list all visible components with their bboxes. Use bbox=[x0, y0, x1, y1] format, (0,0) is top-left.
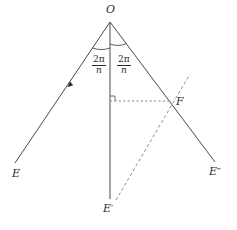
angle-label-right: 2π n bbox=[117, 55, 131, 76]
dashed-diagonal-through-f bbox=[116, 74, 190, 200]
geometry-canvas bbox=[0, 0, 237, 230]
angle-label-left-numerator: 2π bbox=[92, 55, 106, 64]
angle-label-right-denominator: n bbox=[117, 66, 131, 75]
label-point-e-prime-mark: ′ bbox=[111, 203, 113, 214]
label-vertex-o: O bbox=[106, 4, 115, 15]
label-point-e-prime-base: E bbox=[103, 202, 111, 215]
label-point-e-double-prime: E″ bbox=[209, 166, 221, 177]
label-point-e-double-prime-base: E bbox=[209, 165, 217, 178]
angle-arc-left bbox=[93, 48, 111, 50]
label-point-e-prime: E′ bbox=[103, 203, 113, 214]
right-angle-marker-icon bbox=[110, 96, 115, 101]
angle-label-left-denominator: n bbox=[92, 66, 106, 75]
label-point-f: F bbox=[176, 96, 184, 107]
angle-label-right-numerator: 2π bbox=[117, 55, 131, 64]
angle-label-left: 2π n bbox=[92, 55, 106, 76]
geometry-figure: O E E′ E″ F 2π n 2π n bbox=[0, 0, 237, 230]
label-point-e-double-prime-mark: ″ bbox=[217, 166, 221, 177]
ray-o-to-e bbox=[15, 22, 110, 163]
angle-arc-right bbox=[110, 44, 127, 46]
label-point-e: E bbox=[12, 168, 20, 179]
ray-o-to-e-double-prime bbox=[110, 22, 215, 162]
